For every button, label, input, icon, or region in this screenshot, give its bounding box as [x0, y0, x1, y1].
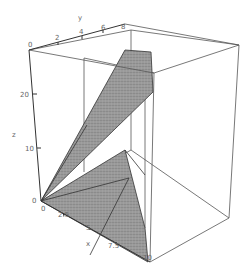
- x-tick-7-5: 7.5: [108, 242, 119, 250]
- y-axis: 0 2 4 6 8 y: [28, 14, 125, 49]
- z-tick-0: 0: [32, 197, 36, 205]
- y-tick-2: 2: [55, 34, 59, 42]
- y-tick-8: 8: [121, 23, 125, 31]
- y-tick-0: 0: [28, 41, 32, 49]
- y-tick-6: 6: [101, 24, 106, 32]
- x-tick-5: 5: [86, 224, 90, 232]
- y-tick-4: 4: [79, 28, 84, 36]
- x-axis-label: x: [86, 240, 90, 248]
- 3d-plot: 0 2 4 6 8 y 20 10 0 z 0 2.5 5 7.5 10 x: [0, 0, 250, 276]
- x-tick-10: 10: [143, 254, 152, 262]
- z-axis-label: z: [12, 131, 16, 139]
- x-tick-2-5: 2.5: [58, 211, 69, 219]
- y-axis-label: y: [78, 14, 82, 22]
- z-tick-10: 10: [25, 145, 34, 153]
- x-tick-0: 0: [41, 205, 45, 213]
- surface-lower: [41, 150, 148, 262]
- z-tick-20: 20: [20, 91, 29, 99]
